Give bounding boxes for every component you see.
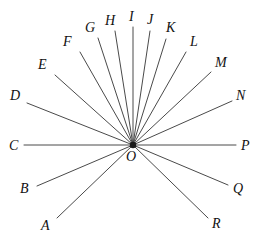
- ray-o-j: [133, 31, 150, 145]
- ray-o-r: [133, 145, 208, 218]
- point-label-k: K: [166, 21, 175, 35]
- ray-o-h: [115, 31, 133, 145]
- ray-group: [24, 27, 236, 218]
- point-label-g: G: [85, 21, 95, 35]
- ray-o-a: [57, 145, 133, 218]
- point-label-r: R: [212, 217, 221, 231]
- ray-diagram: ABCDEFGHIJKLMNPQR O: [0, 0, 266, 251]
- point-label-a: A: [41, 219, 50, 233]
- point-label-b: B: [20, 182, 29, 196]
- vertex-point-o: [130, 142, 136, 148]
- ray-o-d: [27, 103, 133, 145]
- point-label-n: N: [236, 89, 245, 103]
- point-label-l: L: [190, 35, 198, 49]
- point-label-p: P: [241, 139, 250, 153]
- point-label-e: E: [38, 58, 47, 72]
- ray-canvas: [0, 0, 266, 251]
- point-label-h: H: [105, 14, 115, 28]
- vertex-label-o: O: [126, 150, 136, 164]
- point-label-c: C: [9, 139, 18, 153]
- point-label-i: I: [129, 10, 134, 24]
- ray-o-f: [80, 52, 133, 145]
- ray-o-q: [133, 145, 228, 185]
- ray-o-b: [37, 145, 133, 186]
- point-label-m: M: [215, 56, 227, 70]
- point-label-q: Q: [233, 182, 243, 196]
- ray-o-l: [133, 52, 186, 145]
- point-label-d: D: [10, 89, 20, 103]
- ray-o-n: [133, 101, 232, 145]
- point-label-j: J: [147, 13, 153, 27]
- point-label-f: F: [63, 35, 72, 49]
